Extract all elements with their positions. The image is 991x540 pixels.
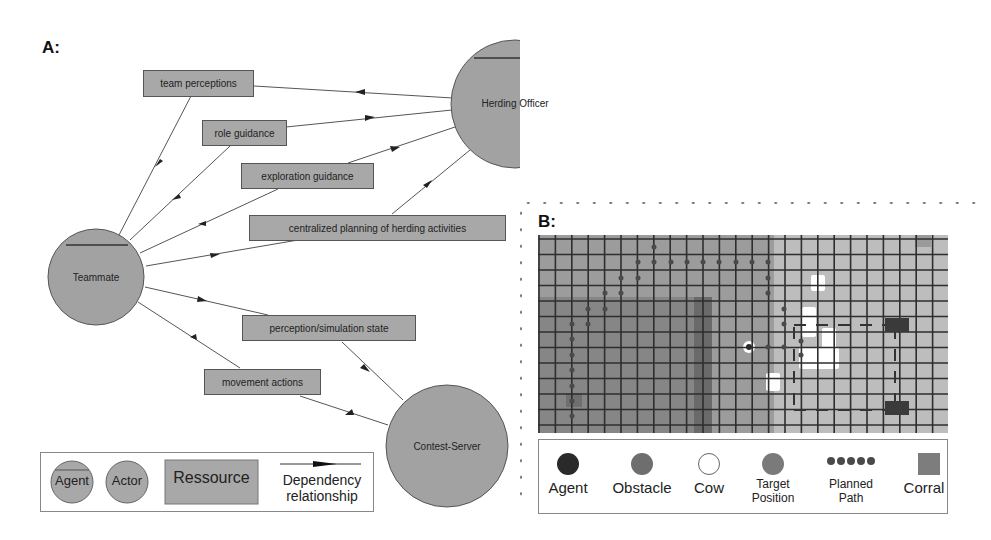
legend-actor-label: Actor [105,474,149,488]
legend-cow-label: Cow [685,480,733,496]
legend-planned-path-icon [827,457,875,465]
resource-movement-actions: movement actions [204,369,321,395]
legend-target-position-icon [762,453,784,475]
legend-corral-label: Corral [899,480,949,496]
legend-target-line1: Target [741,478,805,491]
arrowhead-icon [190,334,197,340]
legend-obstacle-icon [631,453,653,475]
corral-gate-icon [885,318,909,332]
legend-corral-icon [918,453,940,475]
legend-panel-b: Agent Obstacle Cow Target Position Plann… [538,439,948,514]
legend-dependency-line2: relationship [277,489,367,504]
legend-path-line2: Path [819,492,883,505]
teammate-label: Teammate [56,272,136,283]
cow-icon [799,347,839,369]
herding-officer-label: Herding Officer [470,98,560,109]
legend-obstacle-label: Obstacle [605,480,679,496]
legend-path-line1: Planned [819,478,883,491]
arrowhead-icon [423,180,432,188]
legend-arrow-icon [313,461,337,467]
legend-panel-a: Agent Actor Ressource Dependency relatio… [40,452,374,512]
legend-agent-label: Agent [50,474,94,488]
arrowhead-icon [345,409,354,415]
resource-team-perceptions: team perceptions [143,70,254,97]
arrowhead-icon [360,364,370,372]
arrowhead-icon [390,146,400,152]
legend-agent-label: Agent [541,480,595,496]
arrowhead-icon [197,296,207,302]
resource-exploration-guidance: exploration guidance [241,163,374,189]
resource-perception-simulation-state: perception/simulation state [242,315,416,341]
legend-resource-label: Ressource [165,470,258,487]
resource-centralized-planning: centralized planning of herding activiti… [249,215,506,241]
legend-cow-icon [699,454,720,475]
panel-separator-horizontal [520,201,980,205]
agent-position-icon [746,344,752,350]
arrowhead-icon [172,194,181,200]
legend-target-line2: Position [741,492,805,505]
legend-agent-icon [557,453,579,475]
legend-dependency-line1: Dependency [277,473,367,488]
panel-separator-vertical [519,205,523,505]
contest-server-label: Contest-Server [397,441,497,452]
herding-grid-map [538,235,948,433]
resource-role-guidance: role guidance [202,120,287,146]
panel-b-label: B: [538,212,556,232]
corral-gate-icon [885,401,909,415]
arrowhead-icon [355,89,365,95]
